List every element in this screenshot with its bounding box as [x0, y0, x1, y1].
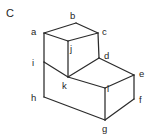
- vertex-label-b: b: [70, 11, 75, 21]
- edge-k-d: [68, 58, 99, 77]
- edge-j-c: [68, 33, 98, 41]
- figure-container: C abcdefghijkl: [0, 0, 153, 140]
- edge-l-e: [105, 75, 134, 88]
- vertex-label-e: e: [139, 69, 144, 79]
- vertex-label-c: c: [102, 27, 107, 37]
- vertex-label-g: g: [102, 124, 107, 134]
- block-solid-drawing: [0, 0, 153, 140]
- vertex-label-a: a: [31, 27, 36, 37]
- edge-k-l: [68, 77, 105, 88]
- edge-g-f: [105, 99, 134, 120]
- vertex-label-d: d: [104, 51, 109, 61]
- edge-a-j: [44, 33, 68, 41]
- vertex-label-i: i: [32, 58, 34, 68]
- edge-i-k: [44, 62, 68, 77]
- vertex-label-h: h: [31, 93, 36, 103]
- vertex-label-k: k: [62, 81, 67, 91]
- edge-a-b: [44, 23, 76, 33]
- vertex-label-l: l: [107, 84, 109, 94]
- edge-c-d: [98, 33, 99, 58]
- vertex-label-j: j: [70, 44, 72, 54]
- edge-b-c: [76, 23, 98, 33]
- edge-group: [44, 23, 134, 120]
- edge-h-g: [44, 97, 105, 120]
- vertex-label-f: f: [139, 95, 142, 105]
